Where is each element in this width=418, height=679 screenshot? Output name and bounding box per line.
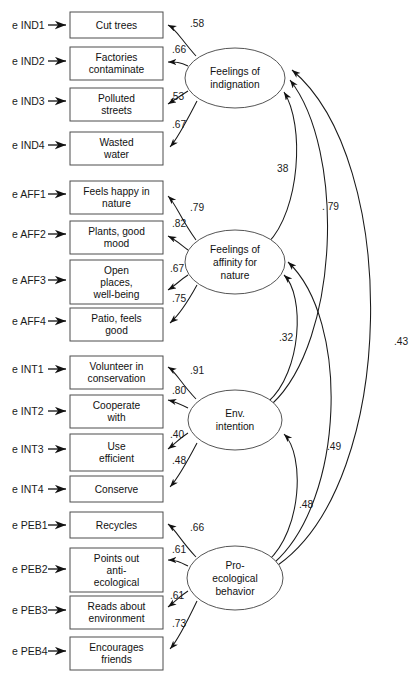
error-arrow-group — [48, 25, 66, 651]
indicator-text: Encourages — [89, 642, 143, 653]
indicator-boxes-group: Cut trees Factories contaminate Polluted… — [70, 12, 163, 670]
latent-factor-intention[interactable]: Env. intention — [188, 390, 282, 450]
indicator-text: Use — [107, 441, 125, 452]
error-label: e AFF4 — [12, 315, 46, 327]
latent-ellipse — [185, 48, 285, 108]
latent-factor-indignation[interactable]: Feelings of indignation — [185, 48, 285, 108]
indicator-text: environment — [88, 613, 144, 624]
error-label: e IND4 — [12, 139, 45, 151]
indicator-text: efficient — [99, 453, 134, 464]
loading-label: .66 — [172, 44, 186, 55]
indicator-text: water — [103, 149, 130, 160]
latent-text: Pro- — [225, 560, 244, 571]
indicator-box-AFF2[interactable]: Plants, good mood — [70, 221, 163, 254]
indicator-text: Reads about — [88, 601, 146, 612]
latent-factor-affinity[interactable]: Feelings of affinity for nature — [185, 230, 285, 294]
loading-path-INT-INT2 — [168, 400, 188, 408]
error-label: e INT2 — [12, 405, 44, 417]
indicator-box-PEB4[interactable]: Encourages friends — [70, 637, 163, 670]
indicator-box-AFF1[interactable]: Feels happy in nature — [70, 181, 163, 214]
indicator-text: Volunteer in — [90, 361, 144, 372]
indicator-text: conservation — [88, 373, 146, 384]
error-label: e IND3 — [12, 95, 45, 107]
indicator-text: Cooperate — [93, 400, 141, 411]
indicator-box-IND1[interactable]: Cut trees — [70, 12, 163, 38]
structural-label: .48 — [299, 499, 313, 510]
indicator-text: Factories — [96, 52, 138, 63]
latent-text: intention — [216, 421, 255, 432]
indicator-box-INT1[interactable]: Volunteer in conservation — [70, 356, 163, 389]
latent-text: indignation — [210, 79, 259, 90]
indicator-text: mood — [104, 238, 130, 249]
structural-label: .32 — [279, 332, 293, 343]
structural-path-INT-IND — [272, 80, 328, 404]
error-label: e IND1 — [12, 19, 45, 31]
indicator-text: nature — [102, 198, 131, 209]
indicator-text: Polluted — [98, 93, 135, 104]
indicator-text: well-being — [93, 289, 140, 300]
indicator-text: Patio, feels — [91, 313, 141, 324]
latent-factor-pro-ecological-behavior[interactable]: Pro- ecological behavior — [187, 546, 283, 610]
loading-label: .80 — [172, 385, 186, 396]
loading-label: .67 — [170, 263, 184, 274]
error-label: e AFF3 — [12, 274, 46, 286]
loading-path-AFF-AFF3 — [168, 275, 188, 290]
error-label: e AFF1 — [12, 188, 46, 200]
indicator-box-PEB2[interactable]: Points out anti- ecological — [70, 548, 163, 592]
loading-path-PEB-PEB2 — [168, 560, 188, 566]
latent-text: behavior — [215, 586, 255, 597]
error-label: e INT3 — [12, 443, 44, 455]
indicator-text: Feels happy in — [83, 186, 149, 197]
indicator-text: ecological — [94, 577, 139, 588]
loading-label: .75 — [172, 293, 186, 304]
indicator-text: Conserve — [95, 484, 139, 495]
structural-path-PEB-AFF — [274, 262, 331, 563]
error-label: e PEB2 — [12, 563, 48, 575]
loading-label: .67 — [172, 119, 186, 130]
loading-path-AFF-AFF4 — [170, 285, 197, 323]
loading-label: .79 — [190, 202, 204, 213]
indicator-text: good — [105, 325, 128, 336]
loading-label: .61 — [170, 590, 184, 601]
indicator-box-IND4[interactable]: Wasted water — [70, 132, 163, 165]
indicator-text: with — [106, 412, 125, 423]
latent-text: Feelings of — [210, 66, 260, 77]
error-label: e IND2 — [12, 55, 45, 67]
indicator-text: friends — [101, 654, 132, 665]
indicator-text: Wasted — [99, 137, 133, 148]
indicator-text: anti- — [107, 565, 127, 576]
indicator-box-IND3[interactable]: Polluted streets — [70, 88, 163, 121]
latent-text: affinity for — [213, 257, 258, 268]
error-label: e INT4 — [12, 483, 44, 495]
indicator-text: Points out — [94, 553, 139, 564]
error-label: e PEB4 — [12, 645, 48, 657]
indicator-text: Cut trees — [96, 20, 137, 31]
latent-text: nature — [221, 270, 250, 281]
indicator-text: places, — [100, 277, 132, 288]
structural-label: 38 — [277, 163, 289, 174]
indicator-box-AFF4[interactable]: Patio, feels good — [70, 308, 163, 341]
error-label: e INT1 — [12, 363, 44, 375]
loading-path-AFF-AFF2 — [168, 236, 188, 250]
indicator-text: contaminate — [89, 64, 145, 75]
indicator-box-INT3[interactable]: Use efficient — [70, 434, 163, 471]
indicator-text: Recycles — [96, 520, 137, 531]
structural-label: . 79 — [322, 201, 339, 212]
loading-label: .58 — [190, 18, 204, 29]
indicator-box-INT4[interactable]: Conserve — [70, 476, 163, 502]
structural-paths-group — [268, 70, 371, 565]
structural-label: .43 — [394, 336, 408, 347]
indicator-box-PEB1[interactable]: Recycles — [70, 512, 163, 538]
loading-label: .82 — [172, 218, 186, 229]
latent-text: ecological — [212, 573, 257, 584]
error-label: e PEB3 — [12, 604, 48, 616]
indicator-text: streets — [101, 105, 132, 116]
indicator-box-INT2[interactable]: Cooperate with — [70, 395, 163, 428]
loading-path-IND-IND2 — [168, 62, 188, 66]
indicator-box-IND2[interactable]: Factories contaminate — [70, 47, 163, 80]
sem-path-diagram: e IND1 e IND2 e IND3 e IND4 e AFF1 e AFF… — [0, 0, 418, 679]
latent-text: Env. — [225, 408, 245, 419]
indicator-box-PEB3[interactable]: Reads about environment — [70, 596, 163, 629]
loading-label: .48 — [172, 455, 186, 466]
indicator-box-AFF3[interactable]: Open places, well-being — [70, 260, 163, 304]
